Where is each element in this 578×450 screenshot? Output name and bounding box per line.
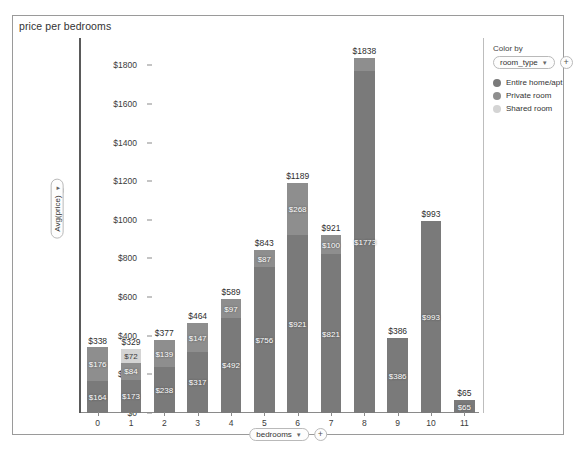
x-axis-tick-label: 11 — [460, 418, 469, 428]
bar-segment-value-label: $1773 — [354, 237, 375, 246]
x-axis-tick-label: 1 — [129, 418, 134, 428]
bar-stack[interactable]: $921$268$1189 — [287, 183, 308, 413]
bar-segment[interactable]: $993 — [421, 221, 442, 413]
bar-segment-value-label: $97 — [221, 304, 242, 313]
y-encoding-control: + Avg(price) ▼ — [27, 184, 87, 215]
bar-total-label: $65 — [446, 388, 483, 398]
y-field-label: Avg(price) — [53, 195, 62, 231]
bar-segment-value-label: $87 — [254, 254, 275, 263]
bar-total-label: $843 — [246, 238, 283, 248]
bar-segment-value-label: $821 — [321, 329, 342, 338]
bar-stack[interactable]: $1773$1838 — [354, 58, 375, 413]
color-field-label: room_type — [500, 58, 538, 67]
x-axis-tick-label: 4 — [229, 418, 234, 428]
legend-encoding-control: room_type ▼ + — [493, 56, 578, 69]
bar-segment[interactable]: $1773 — [354, 71, 375, 413]
bar-segment-value-label: $147 — [187, 333, 208, 342]
bar-segment[interactable]: $84 — [121, 363, 142, 379]
bar-segment[interactable]: $176 — [87, 347, 108, 381]
y-field-pill[interactable]: Avg(price) ▼ — [51, 178, 64, 238]
bar-segment-value-label: $993 — [421, 313, 442, 322]
legend-title: Color by — [493, 44, 578, 53]
bar-segment[interactable]: $821 — [321, 254, 342, 413]
x-field-pill[interactable]: bedrooms ▼ — [249, 428, 309, 441]
bar-segment[interactable]: $164 — [87, 381, 108, 413]
bar-segment-value-label: $492 — [221, 361, 242, 370]
bar-segment[interactable]: $147 — [187, 323, 208, 351]
bar-segment[interactable]: $97 — [221, 299, 242, 318]
legend-divider — [483, 38, 484, 413]
bar-segment[interactable]: $492 — [221, 318, 242, 413]
bar-stack[interactable]: $993$993 — [421, 221, 442, 413]
bar-segment-value-label: $65 — [454, 402, 475, 411]
bar-stack[interactable]: $821$100$921 — [321, 235, 342, 413]
bar-segment-value-label: $921 — [287, 320, 308, 329]
bar-segment[interactable] — [354, 58, 375, 71]
x-axis-tick-mark — [331, 412, 332, 416]
bar-segment-value-label: $386 — [387, 371, 408, 380]
chevron-down-icon: ▼ — [54, 185, 60, 191]
x-axis-tick-label: 8 — [362, 418, 367, 428]
bar-stack[interactable]: $492$97$589 — [221, 299, 242, 413]
legend-item[interactable]: Private room — [493, 91, 578, 100]
x-axis-tick-mark — [398, 412, 399, 416]
legend-item[interactable]: Entire home/apt — [493, 78, 578, 87]
x-axis-tick-label: 7 — [329, 418, 334, 428]
x-axis-tick-label: 0 — [95, 418, 100, 428]
x-axis-tick-mark — [464, 412, 465, 416]
x-axis-tick-mark — [264, 412, 265, 416]
bar-segment-value-label: $173 — [121, 392, 142, 401]
bar-segment[interactable]: $386 — [387, 338, 408, 413]
bar-total-label: $464 — [179, 311, 216, 321]
x-axis-tick-label: 6 — [295, 418, 300, 428]
bar-stack[interactable]: $386$386 — [387, 338, 408, 413]
x-axis-tick-mark — [231, 412, 232, 416]
bar-segment-value-label: $756 — [254, 335, 275, 344]
bar-segment[interactable]: $238 — [154, 367, 175, 413]
bar-segment[interactable]: $139 — [154, 340, 175, 367]
legend-item[interactable]: Shared room — [493, 104, 578, 113]
bar-segment[interactable]: $72 — [121, 349, 142, 363]
add-color-field-button[interactable]: + — [560, 56, 573, 69]
chevron-down-icon: ▼ — [542, 60, 548, 66]
bar-stack[interactable]: $317$147$464 — [187, 323, 208, 413]
bar-total-label: $921 — [313, 223, 350, 233]
bar-stack[interactable]: $173$84$72$329 — [121, 349, 142, 413]
x-axis-tick-label: 9 — [395, 418, 400, 428]
x-axis-tick-mark — [164, 412, 165, 416]
x-axis-tick-mark — [131, 412, 132, 416]
bar-segment[interactable]: $921 — [287, 235, 308, 413]
bar-total-label: $589 — [213, 287, 250, 297]
bar-segment-value-label: $176 — [87, 360, 108, 369]
bar-stack[interactable]: $756$87$843 — [254, 250, 275, 413]
bar-segment[interactable]: $100 — [321, 235, 342, 254]
legend-swatch-icon — [493, 79, 501, 87]
bar-segment[interactable]: $317 — [187, 352, 208, 413]
legend-item-label: Shared room — [506, 104, 552, 113]
bar-segment-value-label: $100 — [321, 240, 342, 249]
bar-segment[interactable]: $268 — [287, 183, 308, 235]
add-x-field-button[interactable]: + — [314, 428, 327, 441]
legend-item-label: Entire home/apt — [506, 78, 562, 87]
legend-item-label: Private room — [506, 91, 551, 100]
bar-segment-value-label: $317 — [187, 378, 208, 387]
bar-segment-value-label: $72 — [121, 352, 142, 361]
bar-total-label: $1838 — [346, 46, 383, 56]
bar-segment[interactable]: $87 — [254, 250, 275, 267]
bar-stack[interactable]: $238$139$377 — [154, 340, 175, 413]
bar-segment-value-label: $164 — [87, 393, 108, 402]
bar-stack[interactable]: $164$176$338 — [87, 348, 108, 413]
bar-total-label: $1189 — [279, 171, 316, 181]
bar-segment-value-label: $84 — [121, 367, 142, 376]
x-field-label: bedrooms — [256, 430, 292, 439]
bar-total-label: $386 — [379, 326, 416, 336]
visualization-frame: price per bedrooms $0$200$400$600$800$10… — [12, 15, 564, 435]
bar-segment[interactable]: $756 — [254, 267, 275, 413]
color-field-pill[interactable]: room_type ▼ — [493, 56, 555, 69]
x-axis-tick-label: 5 — [262, 418, 267, 428]
bar-segment-value-label: $139 — [154, 349, 175, 358]
bar-segment-value-label: $238 — [154, 386, 175, 395]
bar-segment[interactable]: $173 — [121, 380, 142, 413]
chevron-down-icon: ▼ — [296, 432, 302, 438]
bars-container: $164$176$338$173$84$72$329$238$139$377$3… — [81, 46, 481, 413]
